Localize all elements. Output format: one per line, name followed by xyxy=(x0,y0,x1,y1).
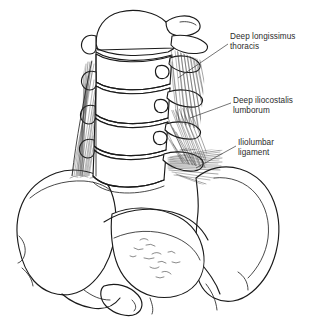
label-deep-iliocostalis-lumborum: Deep iliocostalis lumborum xyxy=(233,96,293,117)
anatomy-figure: .o{fill:#fff;stroke:#1a1a1a;stroke-width… xyxy=(0,0,329,317)
label-deep-longissimus-thoracis: Deep longissimus thoracis xyxy=(230,32,295,53)
label-iliolumbar-ligament: Iliolumbar ligament xyxy=(238,138,274,159)
left-ilium xyxy=(17,170,120,308)
